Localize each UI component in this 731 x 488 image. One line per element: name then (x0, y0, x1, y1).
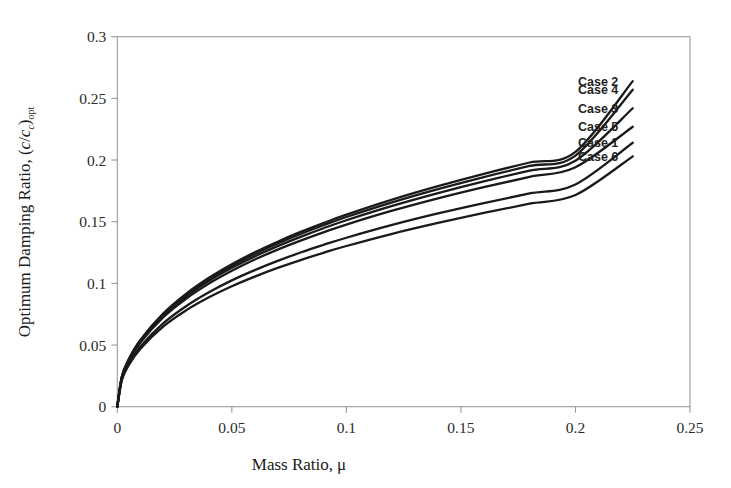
figure-container: 00.050.10.150.20.25 00.050.10.150.20.250… (0, 0, 731, 488)
y-tick-label: 0.1 (87, 275, 106, 292)
x-tick-label: 0 (113, 419, 121, 436)
y-tick-label: 0.2 (87, 152, 106, 169)
y-tick-label: 0.3 (87, 28, 107, 45)
y-axis-title: Optimum Damping Ratio, (c/cc)opt (15, 106, 36, 337)
y-axis-title-sub: opt (25, 106, 36, 119)
legend-label-case-5: Case 5 (578, 120, 618, 134)
y-tick-label: 0.15 (79, 213, 106, 230)
chart-svg: 00.050.10.150.20.25 00.050.10.150.20.250… (0, 0, 731, 488)
x-tick-label: 0.05 (218, 419, 245, 436)
svg-text:Optimum Damping Ratio, (c/cc)o: Optimum Damping Ratio, (c/cc)opt (15, 106, 36, 337)
x-tick-label: 0.2 (566, 419, 585, 436)
svg-text:μ: μ (337, 455, 346, 474)
x-axis-title: Mass Ratio, μ (252, 455, 346, 474)
x-tick-label: 0.15 (447, 419, 474, 436)
x-axis-ticks: 00.050.10.150.20.25 (113, 407, 703, 436)
legend-label-case-3: Case 3 (578, 102, 618, 116)
svg-text:Mass Ratio,: Mass Ratio, (252, 455, 333, 474)
x-tick-label: 0.1 (337, 419, 356, 436)
y-tick-label: 0.05 (79, 337, 106, 354)
y-axis-ticks: 00.050.10.150.20.250.3 (79, 28, 117, 415)
y-axis-title-text: Optimum Damping Ratio, ( (15, 149, 34, 337)
y-tick-label: 0.25 (79, 90, 106, 107)
x-axis-title-text: Mass Ratio, (252, 455, 333, 474)
legend-label-case-6: Case 6 (578, 150, 618, 164)
legend-label-case-4: Case 4 (578, 83, 618, 97)
y-tick-label: 0 (99, 398, 107, 415)
x-axis-title-symbol: μ (337, 455, 346, 474)
x-tick-label: 0.25 (676, 419, 703, 436)
legend-label-case-1: Case 1 (578, 136, 618, 150)
